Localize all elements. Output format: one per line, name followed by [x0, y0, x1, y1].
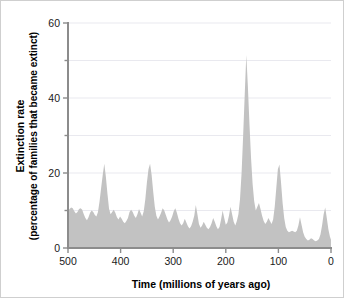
y-tick-label-20: 20 [48, 167, 60, 179]
gridlines [68, 23, 331, 211]
y-axis-title-line1: Extinction rate [14, 99, 26, 172]
y-tick-label-0: 0 [54, 242, 60, 254]
extinction-rate-area-chart: 02040605004003002001000 Time (millions o… [1, 1, 344, 298]
y-tick-label-40: 40 [48, 92, 60, 104]
x-tick-label-100: 100 [270, 255, 288, 267]
extinction-rate-area [68, 55, 331, 248]
x-tick-label-0: 0 [328, 255, 334, 267]
x-axis-title: Time (millions of years ago) [132, 278, 271, 290]
x-tick-label-300: 300 [164, 255, 182, 267]
y-axis-title-line2: (percentage of families that became exti… [28, 32, 39, 240]
figure-container: 02040605004003002001000 Time (millions o… [0, 0, 344, 298]
area-series [68, 55, 331, 248]
y-tick-label-60: 60 [48, 17, 60, 29]
x-tick-label-400: 400 [112, 255, 130, 267]
x-tick-label-500: 500 [59, 255, 77, 267]
x-tick-label-200: 200 [217, 255, 235, 267]
